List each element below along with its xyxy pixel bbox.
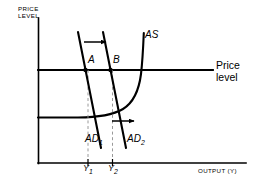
ad1-curve bbox=[78, 32, 101, 148]
ad-as-diagram: PRICE LEVEL OUTPUT (Y) Price level AS A … bbox=[0, 0, 256, 183]
point-b-marker bbox=[108, 68, 112, 72]
price-level-caption: Price level bbox=[216, 59, 240, 84]
point-a-marker bbox=[83, 68, 87, 72]
y-axis-title-line2: LEVEL bbox=[18, 13, 39, 20]
point-a-label: A bbox=[88, 55, 95, 66]
price-level-caption-line2: level bbox=[216, 71, 240, 83]
ad2-curve bbox=[103, 32, 126, 148]
diagram-canvas bbox=[0, 0, 256, 183]
as-curve bbox=[38, 33, 144, 118]
ad1-curve-label-subscript: 1 bbox=[99, 139, 103, 146]
point-b-label: B bbox=[113, 55, 120, 66]
ad2-curve-label-text: AD bbox=[127, 133, 141, 144]
tick-label-y1-subscript: 1 bbox=[89, 168, 93, 175]
as-curve-label: AS bbox=[145, 30, 158, 41]
ad2-curve-label-subscript: 2 bbox=[141, 139, 145, 146]
tick-label-y2-subscript: 2 bbox=[114, 168, 118, 175]
tick-label-y2: Y2 bbox=[108, 164, 118, 175]
tick-label-y1: Y1 bbox=[83, 164, 93, 175]
ad2-curve-label: AD2 bbox=[127, 134, 145, 146]
ad1-curve-label: AD1 bbox=[85, 134, 103, 146]
price-level-caption-line1: Price bbox=[216, 59, 240, 71]
y-axis-title: PRICE LEVEL bbox=[18, 6, 39, 19]
x-axis-title: OUTPUT (Y) bbox=[198, 168, 237, 175]
ad1-curve-label-text: AD bbox=[85, 133, 99, 144]
